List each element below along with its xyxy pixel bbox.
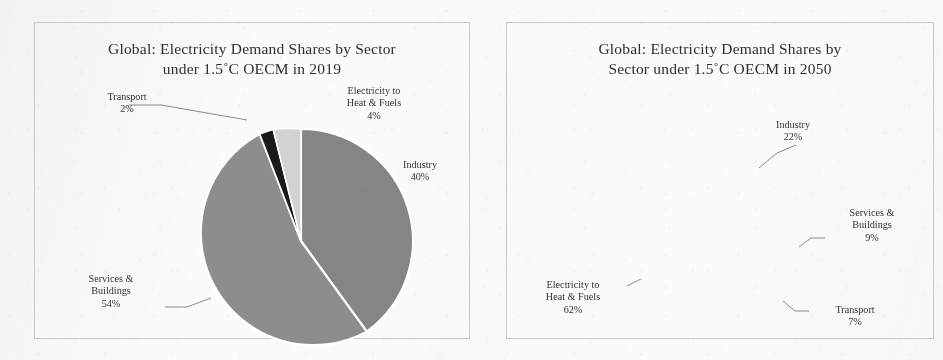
pie-label-services-buildings-2019-line-3: 54% — [55, 298, 167, 310]
pie-label-services-buildings-2050-line-1: Services & — [819, 207, 925, 219]
pie-label-industry-2050-line-2: 22% — [745, 131, 841, 143]
pie-label-electricity-heat-fuels-2050-line-2: Heat & Fuels — [515, 291, 631, 303]
chart-title-2019-line-1: Global: Electricity Demand Shares by Sec… — [35, 39, 469, 59]
leader-line-transport-2050 — [783, 301, 809, 311]
figure-page: Global: Electricity Demand Shares by Sec… — [0, 0, 943, 360]
pie-label-electricity-heat-fuels-2050-line-1: Electricity to — [515, 279, 631, 291]
chart-panel-2019: Global: Electricity Demand Shares by Sec… — [34, 22, 470, 339]
pie-label-electricity-heat-fuels-2019-line-2: Heat & Fuels — [320, 97, 428, 109]
chart-title-2050: Global: Electricity Demand Shares by Sec… — [507, 39, 933, 79]
pie-label-electricity-heat-fuels-2019: Electricity to Heat & Fuels 4% — [320, 85, 428, 122]
pie-label-electricity-heat-fuels-2050: Electricity to Heat & Fuels 62% — [515, 279, 631, 316]
pie-label-transport-2019-line-2: 2% — [79, 103, 175, 115]
pie-label-electricity-heat-fuels-2019-line-1: Electricity to — [320, 85, 428, 97]
pie-label-electricity-heat-fuels-2019-line-3: 4% — [320, 110, 428, 122]
pie-label-industry-2019-line-1: Industry — [375, 159, 465, 171]
leader-line-industry-2050 — [759, 145, 796, 168]
chart-title-2050-line-1: Global: Electricity Demand Shares by — [507, 39, 933, 59]
chart-title-2019: Global: Electricity Demand Shares by Sec… — [35, 39, 469, 79]
pie-label-transport-2019-line-1: Transport — [79, 91, 175, 103]
pie-label-industry-2050: Industry 22% — [745, 119, 841, 144]
chart-panel-2050: Global: Electricity Demand Shares by Sec… — [506, 22, 934, 339]
pie-label-services-buildings-2050-line-2: Buildings — [819, 219, 925, 231]
pie-label-industry-2050-line-1: Industry — [745, 119, 841, 131]
pie-label-transport-2019: Transport 2% — [79, 91, 175, 116]
pie-label-transport-2050-line-2: 7% — [807, 316, 903, 328]
chart-title-2019-line-2: under 1.5˚C OECM in 2019 — [35, 59, 469, 79]
pie-label-electricity-heat-fuels-2050-line-3: 62% — [515, 304, 631, 316]
pie-label-transport-2050-line-1: Transport — [807, 304, 903, 316]
pie-label-services-buildings-2019-line-2: Buildings — [55, 285, 167, 297]
pie-label-services-buildings-2019: Services & Buildings 54% — [55, 273, 167, 310]
pie-label-transport-2050: Transport 7% — [807, 304, 903, 329]
pie-label-services-buildings-2050: Services & Buildings 9% — [819, 207, 925, 244]
pie-label-services-buildings-2050-line-3: 9% — [819, 232, 925, 244]
pie-label-industry-2019-line-2: 40% — [375, 171, 465, 183]
chart-title-2050-line-2: Sector under 1.5˚C OECM in 2050 — [507, 59, 933, 79]
pie-label-industry-2019: Industry 40% — [375, 159, 465, 184]
pie-label-services-buildings-2019-line-1: Services & — [55, 273, 167, 285]
